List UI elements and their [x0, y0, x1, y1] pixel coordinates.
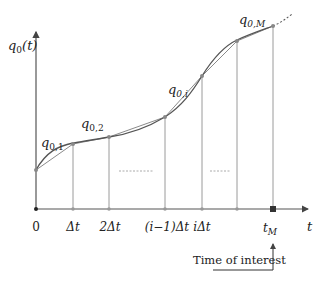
segment-label-q0i: q0,i: [168, 82, 188, 99]
tick-label-idt: iΔt: [193, 220, 211, 234]
tick-label-tM: tM: [263, 221, 278, 237]
x-axis-label: t: [307, 219, 313, 234]
origin-point: [34, 207, 38, 211]
segment-label-q02: q0,2: [81, 116, 104, 133]
time-of-interest-label: Time of interest: [193, 253, 286, 267]
sample-lines: [73, 26, 273, 209]
tick-label-dt: Δt: [65, 220, 80, 234]
tick-label-0: 0: [32, 220, 40, 234]
tick-label-2dt: 2Δt: [98, 220, 120, 234]
y-axis-label: q0(t): [8, 38, 37, 55]
tick-label-i-minus-1-dt: (i−1)Δt: [145, 220, 190, 234]
curve-continuation: [273, 14, 292, 26]
curve-points: [34, 24, 275, 172]
segment-label-q0M: q0,M: [239, 12, 266, 29]
segment-label-q01: q0,1: [41, 135, 64, 152]
time-of-interest-marker: [270, 206, 276, 212]
diagram-canvas: q0(t) t 0 Δt 2Δt (i−1)Δt iΔt tM q0,1 q0,…: [0, 0, 327, 281]
